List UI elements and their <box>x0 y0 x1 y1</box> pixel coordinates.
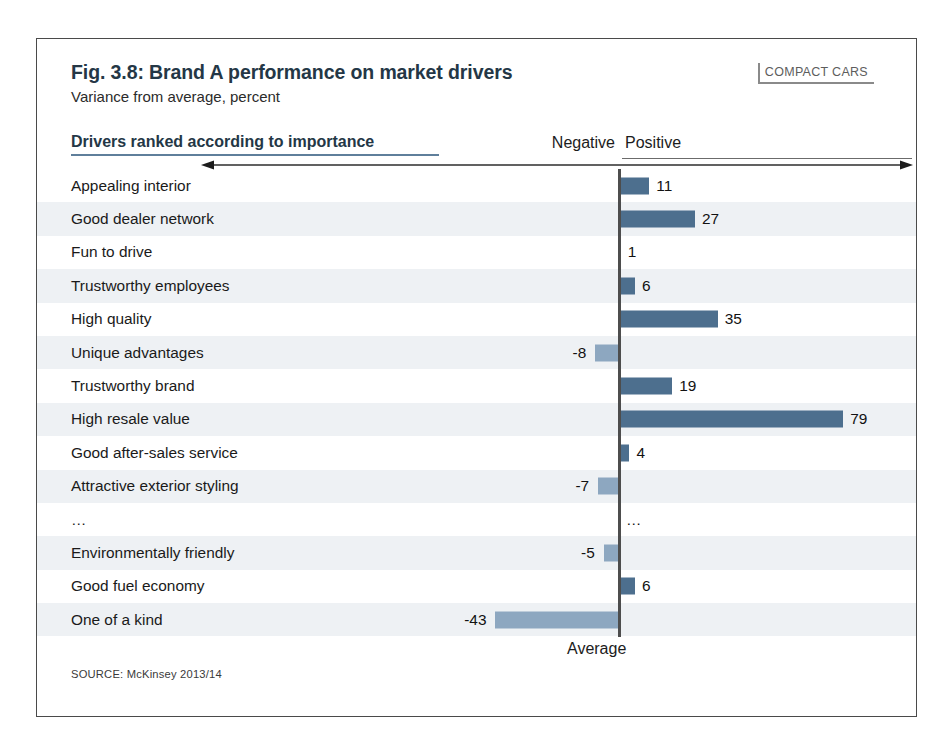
value-bar <box>495 611 618 628</box>
value-bar <box>595 344 618 361</box>
row-label: Good dealer network <box>71 202 214 235</box>
row-value-label: 27 <box>702 210 719 228</box>
row-label: High quality <box>71 303 151 336</box>
chart-row: Fun to drive1 <box>37 236 916 269</box>
value-bar <box>618 311 718 328</box>
negative-direction-label: Negative <box>531 134 615 152</box>
row-label: Good after-sales service <box>71 436 238 469</box>
row-value-label: -7 <box>575 477 589 495</box>
row-label: Appealing interior <box>71 169 191 202</box>
row-value-label: 6 <box>642 577 651 595</box>
row-label: High resale value <box>71 403 190 436</box>
chart-row: Environmentally friendly-5 <box>37 536 916 569</box>
row-label: Unique advantages <box>71 336 204 369</box>
row-label: Fun to drive <box>71 236 152 269</box>
chart-row: High quality35 <box>37 303 916 336</box>
chart-row: High resale value79 <box>37 403 916 436</box>
figure-frame: Fig. 3.8: Brand A performance on market … <box>36 38 917 717</box>
value-bar <box>618 177 649 194</box>
chart-row: Appealing interior11 <box>37 169 916 202</box>
average-axis-label: Average <box>567 640 626 658</box>
chart-rows: Appealing interior11Good dealer network2… <box>37 169 916 636</box>
chart-row: Trustworthy employees6 <box>37 269 916 302</box>
row-value-label: -5 <box>581 544 595 562</box>
value-bar <box>618 378 672 395</box>
value-bar <box>604 544 618 561</box>
average-axis-line <box>618 169 621 637</box>
row-value-label: -43 <box>464 611 486 629</box>
page-title: Fig. 3.8: Brand A performance on market … <box>71 61 512 84</box>
row-value-label: 6 <box>642 277 651 295</box>
segment-tag: COMPACT CARS <box>758 63 874 84</box>
row-value-label: -8 <box>573 344 587 362</box>
title-block: Fig. 3.8: Brand A performance on market … <box>71 61 512 105</box>
row-value-label: 11 <box>656 177 672 195</box>
row-value-label: 35 <box>725 310 742 328</box>
value-bar <box>598 478 618 495</box>
chart-row: Unique advantages-8 <box>37 336 916 369</box>
chart-row: Good dealer network27 <box>37 202 916 235</box>
row-label: Trustworthy employees <box>71 269 230 302</box>
row-label: Good fuel economy <box>71 570 204 603</box>
column-header-row: Drivers ranked according to importance N… <box>37 133 916 169</box>
positive-direction-label: Positive <box>625 134 681 152</box>
chart-row: Trustworthy brand19 <box>37 369 916 402</box>
chart-row: Good fuel economy6 <box>37 570 916 603</box>
row-label: Attractive exterior styling <box>71 470 239 503</box>
chart-subtitle: Variance from average, percent <box>71 88 512 105</box>
chart-row: …… <box>37 503 916 536</box>
row-value-label: 19 <box>679 377 696 395</box>
row-label: … <box>71 503 87 536</box>
row-label: Environmentally friendly <box>71 536 234 569</box>
row-value-label: 79 <box>850 410 867 428</box>
row-label: One of a kind <box>71 603 163 636</box>
value-bar <box>618 411 843 428</box>
drivers-column-header: Drivers ranked according to importance <box>71 133 439 156</box>
chart-row: Good after-sales service4 <box>37 436 916 469</box>
source-note: SOURCE: McKinsey 2013/14 <box>71 668 222 680</box>
row-value-label: 4 <box>636 444 645 462</box>
chart-row: Attractive exterior styling-7 <box>37 470 916 503</box>
chart-row: One of a kind-43 <box>37 603 916 636</box>
row-value-label: … <box>626 511 642 529</box>
row-value-label: 1 <box>628 243 637 261</box>
value-bar <box>618 211 695 228</box>
row-label: Trustworthy brand <box>71 369 194 402</box>
